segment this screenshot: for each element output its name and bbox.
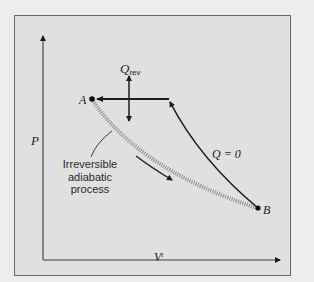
x-axis-label: Vt bbox=[154, 251, 163, 263]
point-b bbox=[255, 205, 260, 210]
heat-label-symbol: Q bbox=[120, 61, 129, 76]
y-axis-label: P bbox=[31, 134, 39, 147]
heat-label: Qrev bbox=[120, 62, 141, 77]
point-a bbox=[89, 96, 95, 102]
caption-line-1: Irreversible bbox=[50, 158, 130, 171]
caption-line-2: adiabatic bbox=[50, 171, 130, 184]
pv-diagram bbox=[0, 0, 314, 282]
heat-label-subscript: rev bbox=[129, 68, 140, 77]
diagram-stage: P Vt A B Qrev Q = 0 Irreversible adiabat… bbox=[0, 0, 314, 282]
caption-leader bbox=[91, 131, 112, 157]
point-a-label: A bbox=[79, 94, 86, 106]
caption-line-3: process bbox=[50, 183, 130, 196]
x-axis-label-superscript: t bbox=[161, 251, 163, 259]
point-b-label: B bbox=[263, 204, 270, 216]
irreversible-caption: Irreversible adiabatic process bbox=[50, 158, 130, 196]
reversible-path-label: Q = 0 bbox=[212, 148, 241, 160]
